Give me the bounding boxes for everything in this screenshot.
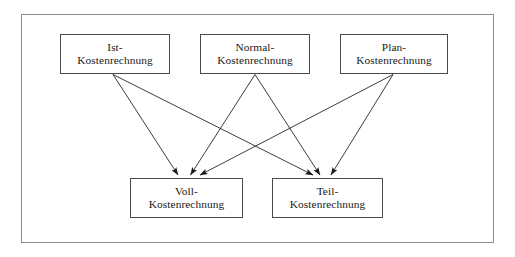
- node-voll-kostenrechnung[interactable]: Voll- Kostenrechnung: [130, 178, 243, 218]
- node-normal-kostenrechnung[interactable]: Normal- Kostenrechnung: [200, 34, 310, 74]
- node-voll-line2: Kostenrechnung: [149, 198, 224, 211]
- node-teil-line2: Kostenrechnung: [290, 198, 365, 211]
- node-ist-kostenrechnung[interactable]: Ist- Kostenrechnung: [60, 34, 170, 74]
- node-ist-line2: Kostenrechnung: [77, 54, 152, 67]
- node-plan-kostenrechnung[interactable]: Plan- Kostenrechnung: [340, 34, 448, 74]
- node-teil-line1: Teil-: [317, 185, 339, 198]
- node-normal-line2: Kostenrechnung: [217, 54, 292, 67]
- node-teil-kostenrechnung[interactable]: Teil- Kostenrechnung: [272, 178, 383, 218]
- node-plan-line1: Plan-: [382, 41, 406, 54]
- node-voll-line1: Voll-: [175, 185, 198, 198]
- node-normal-line1: Normal-: [236, 41, 275, 54]
- diagram-canvas: Ist- Kostenrechnung Normal- Kostenrechnu…: [0, 0, 515, 257]
- node-ist-line1: Ist-: [107, 41, 122, 54]
- node-plan-line2: Kostenrechnung: [356, 54, 431, 67]
